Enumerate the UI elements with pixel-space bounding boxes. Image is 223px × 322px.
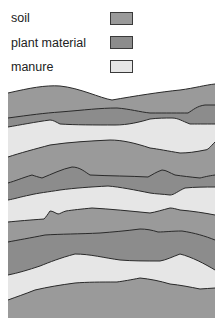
strata-diagram	[0, 0, 223, 322]
